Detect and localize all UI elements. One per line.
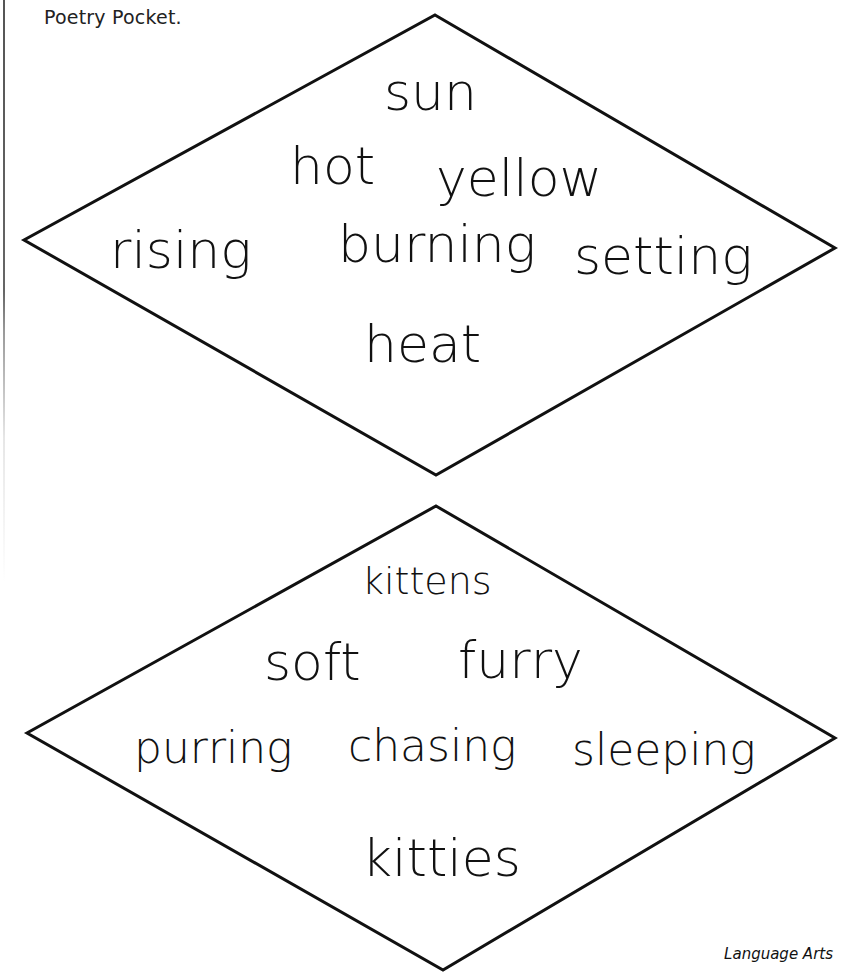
poem-word: kittens: [362, 562, 492, 600]
poem-word: furry: [458, 634, 583, 686]
poem-word: purring: [134, 726, 293, 770]
poem-word: yellow: [436, 152, 602, 204]
diamond-outlines: [0, 0, 847, 972]
poem-word: sleeping: [572, 728, 756, 772]
poem-word: kitties: [362, 832, 521, 884]
poem-word: heat: [364, 318, 481, 370]
poem-word: chasing: [348, 724, 516, 768]
poem-word: rising: [110, 224, 252, 276]
poem-word: soft: [264, 636, 361, 688]
poem-word: burning: [338, 218, 536, 270]
poem-word: setting: [574, 230, 752, 282]
poem-word: hot: [290, 140, 375, 192]
footer-subject-label: Language Arts: [724, 945, 833, 963]
poem-word: sun: [384, 66, 477, 118]
